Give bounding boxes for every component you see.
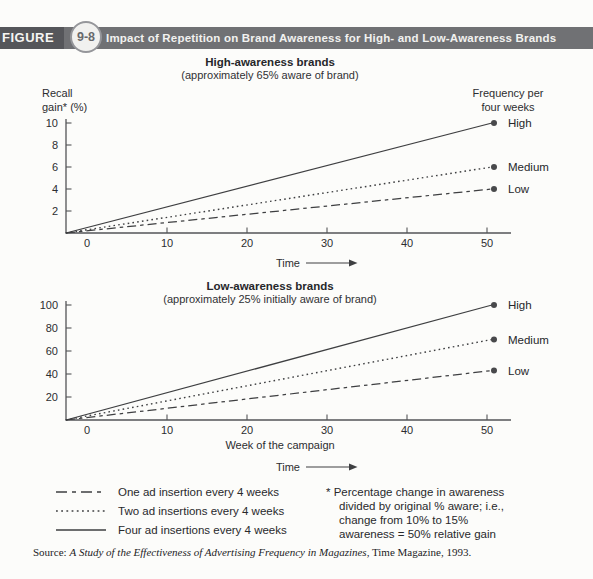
legend-item-label: Two ad insertions every 4 weeks bbox=[118, 505, 284, 517]
source-study-title: A Study of the Effectiveness of Advertis… bbox=[70, 546, 367, 558]
y-tick-label: 100 bbox=[40, 299, 58, 311]
series-line-medium bbox=[66, 167, 492, 233]
series-label-medium: Medium bbox=[508, 161, 549, 173]
footnote: * Percentage change in awareness divided… bbox=[326, 485, 581, 541]
series-line-low bbox=[66, 371, 492, 420]
x-tick-label: 50 bbox=[481, 424, 493, 436]
x-tick-label: 10 bbox=[161, 237, 173, 249]
legend-item: One ad insertion every 4 weeks bbox=[55, 486, 287, 498]
source-line: Source:A Study of the Effectiveness of A… bbox=[33, 546, 471, 558]
source-prefix: Source: bbox=[33, 546, 67, 558]
y-tick-label: 80 bbox=[46, 322, 58, 334]
x-tick-label: 10 bbox=[161, 424, 173, 436]
legend-item-label: Four ad insertions every 4 weeks bbox=[118, 524, 287, 536]
y-tick-label: 8 bbox=[52, 139, 58, 151]
legend-item-label: One ad insertion every 4 weeks bbox=[118, 486, 279, 498]
legend-item: Two ad insertions every 4 weeks bbox=[55, 505, 287, 517]
series-end-dot bbox=[491, 368, 497, 374]
y-tick-label: 40 bbox=[46, 368, 58, 380]
time-arrow-head bbox=[349, 464, 358, 471]
series-end-dot bbox=[491, 302, 497, 308]
x-tick-label: 0 bbox=[84, 237, 90, 249]
x-tick-label: 30 bbox=[321, 424, 333, 436]
x-tick-label: 20 bbox=[241, 237, 253, 249]
series-end-dot bbox=[491, 186, 497, 192]
time-label: Time bbox=[276, 257, 300, 269]
series-label-high: High bbox=[508, 299, 532, 311]
chart-high-awareness: 24681001020304050HighMediumLowTime bbox=[46, 117, 549, 269]
y-tick-label: 4 bbox=[52, 183, 58, 195]
series-line-medium bbox=[66, 340, 492, 421]
figure-page: { "header": { "figure_label": "FIGURE", … bbox=[0, 0, 593, 579]
y-tick-label: 2 bbox=[52, 205, 58, 217]
source-suffix: , Time Magazine, 1993. bbox=[367, 546, 472, 558]
x-tick-label: 20 bbox=[241, 424, 253, 436]
y-tick-label: 60 bbox=[46, 345, 58, 357]
x-tick-label: 0 bbox=[84, 424, 90, 436]
x-tick-label: 50 bbox=[481, 237, 493, 249]
series-line-high bbox=[66, 123, 492, 233]
series-label-high: High bbox=[508, 117, 532, 129]
legend-item: Four ad insertions every 4 weeks bbox=[55, 524, 287, 536]
time-label: Time bbox=[276, 461, 300, 473]
series-end-dot bbox=[491, 337, 497, 343]
y-tick-label: 6 bbox=[52, 161, 58, 173]
x-tick-label: 40 bbox=[401, 424, 413, 436]
y-tick-label: 20 bbox=[46, 391, 58, 403]
legend-line-sample-solid bbox=[55, 525, 107, 535]
series-label-medium: Medium bbox=[508, 334, 549, 346]
x-tick-label: 40 bbox=[401, 237, 413, 249]
y-tick-label: 10 bbox=[46, 117, 58, 129]
series-end-dot bbox=[491, 164, 497, 170]
time-arrow-head bbox=[349, 260, 358, 267]
series-label-low: Low bbox=[508, 183, 530, 195]
chart-low-awareness: 2040608010001020304050HighMediumLowWeek … bbox=[40, 299, 549, 473]
legend-line-sample-dashdot bbox=[55, 487, 107, 497]
line-style-legend: One ad insertion every 4 weeksTwo ad ins… bbox=[55, 486, 287, 536]
series-end-dot bbox=[491, 120, 497, 126]
series-label-low: Low bbox=[508, 365, 530, 377]
x-axis-title: Week of the campaign bbox=[225, 439, 334, 451]
legend-line-sample-dotted bbox=[55, 506, 107, 516]
series-line-high bbox=[66, 305, 492, 420]
series-line-low bbox=[66, 189, 492, 233]
x-tick-label: 30 bbox=[321, 237, 333, 249]
